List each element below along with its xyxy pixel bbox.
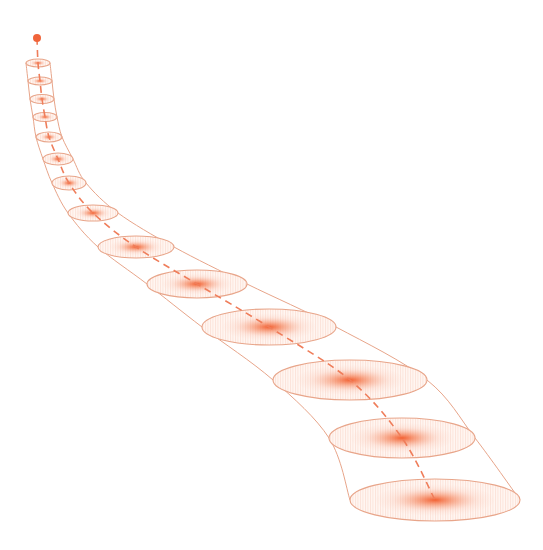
cross-section-ellipse — [68, 205, 118, 221]
cross-section-ellipse — [350, 479, 520, 521]
cross-section-ellipse — [329, 418, 475, 458]
diffusion-diagram — [0, 0, 543, 550]
origin-point — [33, 34, 41, 42]
cross-sections — [26, 59, 520, 521]
